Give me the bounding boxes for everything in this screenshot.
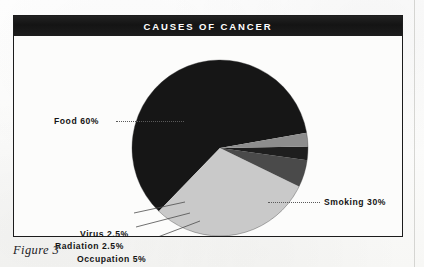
figure-caption: Figure 3 bbox=[13, 243, 59, 258]
slice-label-virus: Virus 2.5% bbox=[80, 229, 129, 239]
figure-page: CAUSES OF CANCER Food 60% Smoking 30% Vi… bbox=[0, 0, 424, 267]
figure-frame: CAUSES OF CANCER Food 60% Smoking 30% Vi… bbox=[13, 15, 403, 237]
slice-label-occupation: Occupation 5% bbox=[77, 254, 146, 264]
leader-line-smoking bbox=[268, 202, 320, 203]
slice-label-food: Food 60% bbox=[54, 116, 99, 126]
pie-slices bbox=[132, 60, 308, 236]
slice-label-smoking: Smoking 30% bbox=[324, 197, 386, 207]
pie-chart-area: Food 60% Smoking 30% Virus 2.5% Radiatio… bbox=[14, 36, 402, 236]
leader-line-food bbox=[116, 121, 184, 122]
slice-label-radiation: Radiation 2.5% bbox=[55, 241, 124, 251]
chart-title: CAUSES OF CANCER bbox=[143, 21, 272, 32]
chart-title-band: CAUSES OF CANCER bbox=[14, 16, 402, 36]
page-edge-rule bbox=[414, 0, 415, 267]
